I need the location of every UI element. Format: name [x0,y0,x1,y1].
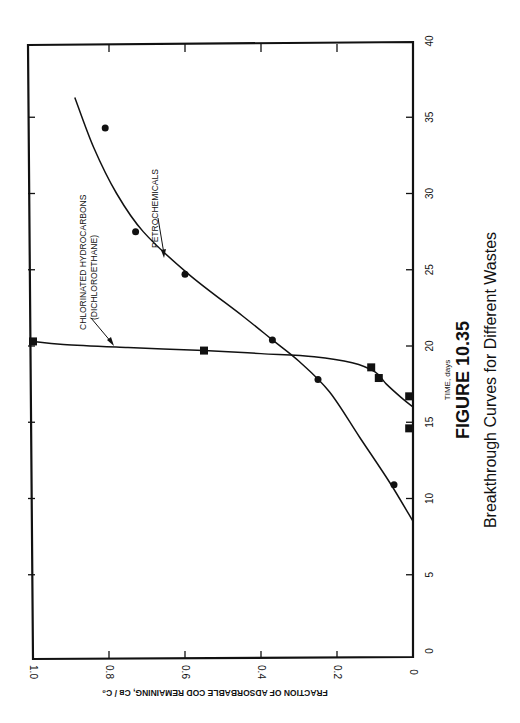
breakthrough-chart: 051015202530354000.20.40.60.81.0TIME, da… [0,0,520,723]
x-tick-label: 10 [424,493,435,505]
y-tick-label: 0.4 [256,665,267,679]
data-point-circle [132,228,139,235]
data-point-circle [269,336,276,343]
y-axis-label: FRACTION OF ADSORBABLE COD REMAINING, Cʙ… [102,688,328,698]
data-point-square [405,424,413,432]
chlorinated-sublabel: (DICHLOROETHANE) [89,235,99,320]
data-point-circle [315,376,322,383]
x-tick-label: 15 [424,416,435,428]
x-tick-label: 30 [424,188,435,200]
data-point-square [367,363,375,371]
y-tick-label: 1.0 [28,665,39,679]
figure-number: FIGURE 10.35 [453,321,474,439]
petrochemicals-label: PETROCHEMICALS [150,169,160,248]
data-point-square [200,347,208,355]
y-tick-label: 0.8 [104,665,115,679]
data-point-circle [102,124,109,131]
data-point-square [405,392,413,400]
data-point-square [375,374,383,382]
chlorinated-label: CHLORINATED HYDROCARBONS [78,194,88,330]
data-point-circle [182,271,189,278]
petrochemicals-curve [75,97,413,521]
y-tick-label: 0.2 [332,665,343,679]
x-tick-label: 0 [424,648,435,654]
chlorinated-curve [33,341,413,407]
plot-frame [28,42,413,659]
x-tick-label: 20 [424,340,435,352]
data-point-circle [391,481,398,488]
data-point-square [29,337,37,345]
x-tick-label: 40 [424,35,435,47]
x-tick-label: 35 [424,111,435,123]
figure-caption: Breakthrough Curves for Different Wastes [482,232,500,528]
y-tick-label: 0.6 [180,665,191,679]
y-tick-label: 0 [408,669,419,675]
x-tick-label: 5 [424,572,435,578]
x-tick-label: 25 [424,264,435,276]
x-axis-label: TIME, days [443,360,452,400]
